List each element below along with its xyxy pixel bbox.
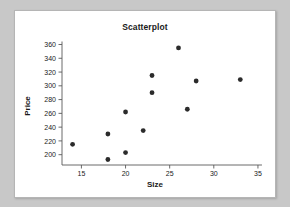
data-point [238,77,243,82]
plot-canvas: 200220240260280300320340360 1520253035 S… [15,11,277,199]
data-point [70,142,75,147]
data-point [150,90,155,95]
y-tick-label: 300 [44,82,56,89]
y-axis: 200220240260280300320340360 [44,41,62,165]
y-tick-label: 260 [44,110,56,117]
x-tick-label: 25 [166,170,174,177]
chart-card: Scatterplot 200220240260280300320340360 … [14,10,276,198]
data-point [141,128,146,133]
y-tick-label: 320 [44,69,56,76]
y-tick-label: 360 [44,41,56,48]
x-tick-label: 15 [78,170,86,177]
data-point [123,110,128,115]
x-tick-label: 30 [210,170,218,177]
data-point [123,150,128,155]
x-axis-title: Size [147,180,164,189]
data-point [105,132,110,137]
y-axis-title: Price [23,96,32,116]
y-tick-label: 280 [44,96,56,103]
scatterplot-figure: Scatterplot 200220240260280300320340360 … [15,11,275,197]
x-axis: 1520253035 [62,165,262,177]
y-tick-label: 240 [44,124,56,131]
y-tick-label: 220 [44,138,56,145]
y-tick-label: 200 [44,151,56,158]
data-points [70,46,242,162]
x-tick-label: 35 [254,170,262,177]
screenshot-root: Scatterplot 200220240260280300320340360 … [0,0,290,207]
x-tick-label: 20 [122,170,130,177]
y-tick-label: 340 [44,55,56,62]
data-point [194,79,199,84]
data-point [150,73,155,78]
data-point [176,46,181,51]
data-point [105,157,110,162]
data-point [185,107,190,112]
